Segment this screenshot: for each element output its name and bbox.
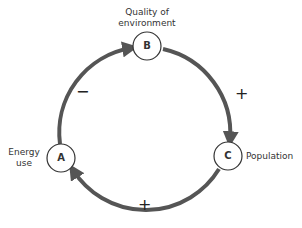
node-b-label-line2: environment: [107, 18, 187, 29]
node-b-letter: B: [140, 40, 154, 51]
sign-b-to-c: +: [235, 86, 248, 102]
node-b-label-line1: Quality of: [107, 7, 187, 18]
node-b-label: Quality of environment: [107, 7, 187, 29]
node-c-letter: C: [221, 150, 235, 161]
node-a-label-line1: Energy: [6, 147, 42, 158]
arrow-a-to-b: [59, 48, 131, 144]
node-c-label: Population: [246, 151, 293, 162]
arrow-b-to-c: [163, 49, 230, 140]
node-a-letter: A: [54, 152, 68, 163]
loop-diagram: [0, 0, 302, 228]
sign-c-to-a: +: [138, 197, 151, 213]
node-a-label-line2: use: [6, 158, 42, 169]
node-a-label: Energy use: [6, 147, 42, 169]
sign-a-to-b: −: [76, 84, 89, 100]
